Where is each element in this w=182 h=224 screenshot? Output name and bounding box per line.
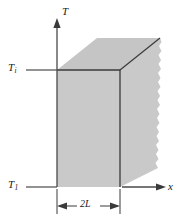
- plane-wall-diagram: [0, 0, 182, 224]
- dimension-arrow-right: [110, 203, 120, 210]
- label-surface-temperature-subscript: 1: [15, 183, 19, 192]
- axis-label-position: x: [168, 181, 173, 192]
- label-initial-temperature-symbol: T: [8, 61, 14, 73]
- axis-label-position-symbol: x: [168, 180, 173, 192]
- solid-front-face: [57, 70, 120, 187]
- figure-container: T x Ti T1 2L: [0, 0, 182, 224]
- label-thickness: 2L: [80, 199, 91, 209]
- label-surface-temperature-symbol: T: [8, 178, 14, 190]
- axis-label-temperature: T: [62, 6, 68, 17]
- axis-label-temperature-symbol: T: [62, 5, 68, 17]
- dimension-arrow-left: [57, 203, 67, 210]
- axis-arrow-horizontal: [156, 183, 166, 190]
- label-surface-temperature: T1: [8, 179, 18, 192]
- label-initial-temperature-subscript: i: [15, 66, 17, 75]
- axis-arrow-vertical: [53, 18, 60, 28]
- label-initial-temperature: Ti: [8, 62, 17, 75]
